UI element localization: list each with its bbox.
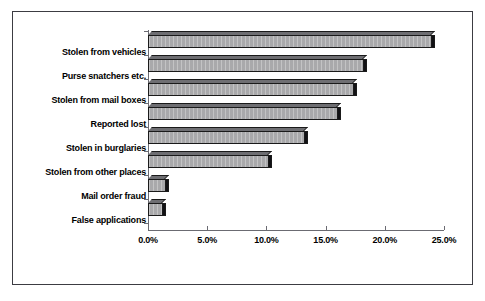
category-label: Purse snatchers etc.: [62, 71, 146, 81]
bar: [148, 127, 308, 148]
value-tick: [207, 226, 208, 230]
bar: [148, 151, 272, 172]
bar: [148, 103, 341, 124]
bar-side-face: [363, 59, 367, 72]
category-label: Stolen from vehicles: [62, 47, 146, 57]
value-tick: [266, 226, 267, 230]
category-label: Mail order fraud: [81, 191, 146, 201]
value-tick-label: 15.0%: [296, 235, 356, 245]
category-label: Stolen from other places: [45, 167, 146, 177]
value-tick: [326, 226, 327, 230]
category-tick: [144, 223, 148, 224]
bar: [148, 55, 367, 76]
value-tick-label: 0.0%: [118, 235, 178, 245]
category-label: Stolen in burglaries: [66, 143, 146, 153]
bar: [148, 79, 357, 100]
bar-side-face: [431, 35, 435, 48]
bar: [148, 31, 435, 52]
value-tick: [385, 226, 386, 230]
value-tick-label: 25.0%: [414, 235, 474, 245]
bar-front-face: [148, 107, 337, 120]
value-tick: [444, 226, 445, 230]
bar-side-face: [165, 179, 169, 192]
bar-front-face: [148, 131, 304, 144]
bar-front-face: [148, 35, 431, 48]
bar-side-face: [337, 107, 341, 120]
value-tick-label: 20.0%: [355, 235, 415, 245]
value-tick-label: 5.0%: [177, 235, 237, 245]
bar-front-face: [148, 203, 162, 216]
bar-side-face: [304, 131, 308, 144]
bar: [148, 175, 169, 196]
value-axis-line: [148, 230, 444, 231]
category-label: False applications: [72, 215, 146, 225]
bar-side-face: [162, 203, 166, 216]
bar: [148, 199, 166, 220]
bar-front-face: [148, 155, 268, 168]
bar-side-face: [268, 155, 272, 168]
bar-front-face: [148, 59, 363, 72]
bar-chart-plot-area: Stolen from vehicles Purse snatchers etc…: [13, 12, 474, 286]
value-tick-label: 10.0%: [236, 235, 296, 245]
bar-front-face: [148, 179, 165, 192]
chart-frame: Stolen from vehicles Purse snatchers etc…: [12, 11, 473, 285]
bar-front-face: [148, 83, 353, 96]
category-label: Reported lost: [91, 119, 146, 129]
bar-side-face: [353, 83, 357, 96]
value-tick: [148, 226, 149, 230]
category-label: Stolen from mail boxes: [51, 95, 146, 105]
